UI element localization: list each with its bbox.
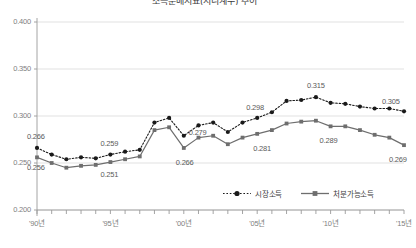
x-tick-label: '95년 (90, 217, 130, 228)
x-tick-label: '90년 (17, 217, 57, 228)
x-tick-label: '00년 (164, 217, 204, 228)
dotted-line-marker-icon (222, 189, 252, 198)
data-point-label: 0.315 (307, 81, 325, 90)
data-point-label: 0.266 (176, 158, 194, 167)
solid-line-marker-icon (300, 189, 330, 198)
data-point-label: 0.266 (27, 132, 45, 141)
data-point-label: 0.251 (100, 170, 118, 179)
data-point-label: 0.289 (320, 136, 338, 145)
legend-item[interactable]: 처분가능소득 (300, 188, 374, 199)
y-tick-label: 0.400 (1, 17, 31, 26)
legend-label: 처분가능소득 (333, 188, 374, 199)
x-tick-label: '10년 (311, 217, 351, 228)
data-point-label: 0.298 (246, 103, 264, 112)
x-tick-label: '05년 (237, 217, 277, 228)
legend-label: 시장소득 (255, 188, 282, 199)
data-point-label: 0.256 (27, 163, 45, 172)
data-point-label: 0.279 (189, 128, 207, 137)
y-tick-label: 0.200 (1, 205, 31, 214)
legend-item[interactable]: 시장소득 (222, 188, 282, 199)
data-point-label: 0.305 (382, 97, 400, 106)
y-tick-label: 0.350 (1, 64, 31, 73)
y-tick-label: 0.300 (1, 111, 31, 120)
chart-legend: 시장소득처분가능소득 (222, 188, 374, 199)
data-point-label: 0.281 (253, 144, 271, 153)
data-point-label: 0.269 (389, 155, 407, 164)
data-point-label: 0.259 (100, 139, 118, 148)
x-tick-label: '15년 (384, 217, 416, 228)
